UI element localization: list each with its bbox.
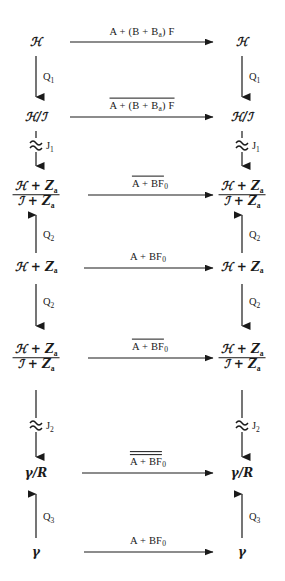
object-row-6-left: γ/R <box>25 467 47 480</box>
stacked-quotient: ℋ + Ζa ℐ + Ζa <box>219 180 266 210</box>
object-row-5-left: ℋ + Ζa ℐ + Ζa <box>13 343 60 373</box>
arrow-label-sub: 0 <box>162 255 166 264</box>
arrow-label-sub: 0 <box>162 460 166 469</box>
object-row-1-left: ℋ <box>30 36 42 49</box>
arrow-label-sub: 0 <box>164 345 168 354</box>
map-label-sub: 3 <box>51 516 55 525</box>
map-label-sub: 2 <box>50 425 54 434</box>
quotient-denominator: R <box>243 466 253 480</box>
map-label-sub: 1 <box>257 76 261 85</box>
map-label-sub: 1 <box>51 76 55 85</box>
vertical-map-label-right-J2: J2 <box>252 420 260 433</box>
object-label: ℋ <box>30 35 42 49</box>
object-label: ℋ + Ζ <box>221 260 260 274</box>
vertical-map-label-left-Q2-down: Q2 <box>43 296 54 309</box>
arrow-label-main: A + BF <box>130 251 162 262</box>
quotient-numerator: ℋ + Ζa <box>13 343 60 358</box>
quotient-denominator: ℐ + Ζa <box>219 196 266 210</box>
vertical-arrow-right-J1 <box>236 131 248 166</box>
vertical-arrow-left-J2 <box>30 390 42 457</box>
commutative-diagram: ℋ ℋ A + (B + Ba) F ℋ/ℐ ℋ/ℐ A + (B + Ba) … <box>0 0 285 581</box>
map-label-sub: 2 <box>257 301 261 310</box>
map-label: Q <box>43 511 51 522</box>
map-label-sub: 2 <box>51 301 55 310</box>
arrow-label-row-1: A + (B + Ba) F <box>110 24 175 39</box>
object-label: ℋ + Ζ <box>15 260 54 274</box>
vertical-map-label-left-J2: J2 <box>46 420 54 433</box>
quotient-denominator: ℐ <box>247 110 253 124</box>
object-row-6-right: γ/R <box>231 467 253 480</box>
object-row-5-right: ℋ + Ζa ℐ + Ζa <box>219 343 266 373</box>
quotient-numerator: γ <box>25 466 33 480</box>
quotient-numerator: ℋ <box>231 110 243 124</box>
arrow-label-main: A + (B + B <box>110 26 159 37</box>
map-label: Q <box>43 296 51 307</box>
stacked-quotient: ℋ + Ζa ℐ + Ζa <box>13 180 60 210</box>
map-label-sub: 1 <box>50 145 54 154</box>
stacked-quotient: ℋ + Ζa ℐ + Ζa <box>219 343 266 373</box>
arrow-label-tail: ) F <box>162 26 175 37</box>
arrow-label-main: A + BF <box>130 456 162 467</box>
quotient-numerator: ℋ + Ζa <box>219 180 266 195</box>
vertical-arrow-right-J2 <box>236 390 248 457</box>
quotient-denominator: ℐ + Ζa <box>219 359 266 373</box>
arrow-label-row-5: A + BF0 <box>132 337 168 354</box>
quotient-denominator: ℐ + Ζa <box>13 359 60 373</box>
stacked-quotient: ℋ + Ζa ℐ + Ζa <box>13 343 60 373</box>
object-row-2-right: ℋ/ℐ <box>231 111 253 124</box>
arrow-label-tail: ) F <box>162 100 175 111</box>
vertical-map-label-left-J1: J1 <box>46 140 54 153</box>
quotient-denominator: ℐ <box>41 110 47 124</box>
map-label-sub: 2 <box>51 234 55 243</box>
arrow-label-sub: 0 <box>164 182 168 191</box>
object-label: γ <box>238 545 246 559</box>
vertical-map-label-right-J1: J1 <box>252 140 260 153</box>
object-label: γ <box>32 545 40 559</box>
arrow-label-main: A + BF <box>130 535 162 546</box>
vertical-map-label-right-Q1: Q1 <box>249 71 260 84</box>
arrow-label-sub: 0 <box>162 539 166 548</box>
object-label: ℋ <box>236 35 248 49</box>
vertical-map-label-left-Q2-up: Q2 <box>43 229 54 242</box>
quotient-numerator: ℋ + Ζa <box>13 180 60 195</box>
arrow-label-main: A + BF <box>132 341 164 352</box>
arrow-label-main: A + BF <box>132 178 164 189</box>
quotient-denominator: R <box>37 466 47 480</box>
object-row-3-right: ℋ + Ζa ℐ + Ζa <box>219 180 266 210</box>
vertical-map-label-left-Q3-up: Q3 <box>43 511 54 524</box>
arrow-label-row-4: A + BF0 <box>130 249 166 264</box>
object-row-4-right: ℋ + Ζa <box>221 261 264 275</box>
arrow-label-row-6: A + BF0 <box>130 449 166 469</box>
arrow-label-row-7: A + BF0 <box>130 533 166 548</box>
vertical-arrow-left-J1 <box>30 131 42 166</box>
quotient-numerator: γ <box>231 466 239 480</box>
quotient-numerator: ℋ + Ζa <box>219 343 266 358</box>
map-label: Q <box>249 229 257 240</box>
arrow-label-row-2: A + (B + Ba) F <box>110 96 175 113</box>
quotient-denominator: ℐ + Ζa <box>13 196 60 210</box>
map-label-sub: 3 <box>257 516 261 525</box>
map-label: Q <box>249 511 257 522</box>
object-label-sub: a <box>260 266 264 275</box>
arrow-label-row-3: A + BF0 <box>132 174 168 191</box>
object-row-7-right: γ <box>238 546 246 559</box>
map-label-sub: 2 <box>257 234 261 243</box>
vertical-map-label-right-Q2-down: Q2 <box>249 296 260 309</box>
arrow-label-main: A + (B + B <box>110 100 159 111</box>
vertical-map-label-right-Q2-up: Q2 <box>249 229 260 242</box>
map-label: Q <box>249 71 257 82</box>
map-label: Q <box>43 229 51 240</box>
vertical-map-label-left-Q1: Q1 <box>43 71 54 84</box>
vertical-map-label-right-Q3-up: Q3 <box>249 511 260 524</box>
map-label-sub: 2 <box>256 425 260 434</box>
object-label-sub: a <box>54 266 58 275</box>
object-row-3-left: ℋ + Ζa ℐ + Ζa <box>13 180 60 210</box>
map-label: Q <box>43 71 51 82</box>
diagram-arrows-layer <box>0 0 285 581</box>
map-label: Q <box>249 296 257 307</box>
quotient-numerator: ℋ <box>25 110 37 124</box>
object-row-4-left: ℋ + Ζa <box>15 261 58 275</box>
object-row-7-left: γ <box>32 546 40 559</box>
map-label-sub: 1 <box>256 145 260 154</box>
object-row-1-right: ℋ <box>236 36 248 49</box>
